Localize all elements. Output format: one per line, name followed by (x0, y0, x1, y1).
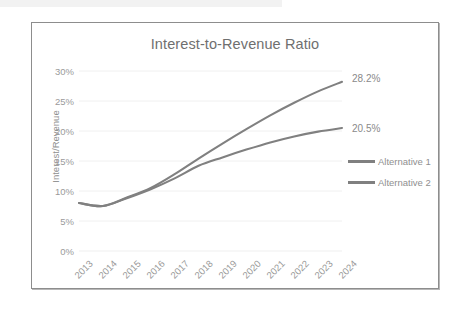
legend-label-alternative-2: Alternative 2 (378, 177, 431, 188)
chart-container: Interest-to-Revenue Ratio Interest/Reven… (31, 22, 439, 289)
series-line-alternative-1 (79, 128, 342, 206)
legend-item-alternative-1[interactable]: Alternative 1 (348, 153, 431, 170)
chart-legend: Alternative 1 Alternative 2 (348, 153, 431, 195)
data-label-alternative-1: 20.5% (352, 123, 380, 134)
data-label-alternative-2: 28.2% (352, 73, 380, 84)
legend-swatch-icon (348, 181, 375, 183)
top-decorative-band (0, 0, 282, 7)
series-line-alternative-2 (79, 82, 342, 206)
legend-swatch-icon (348, 160, 375, 162)
legend-item-alternative-2[interactable]: Alternative 2 (348, 174, 431, 191)
legend-label-alternative-1: Alternative 1 (378, 156, 431, 167)
